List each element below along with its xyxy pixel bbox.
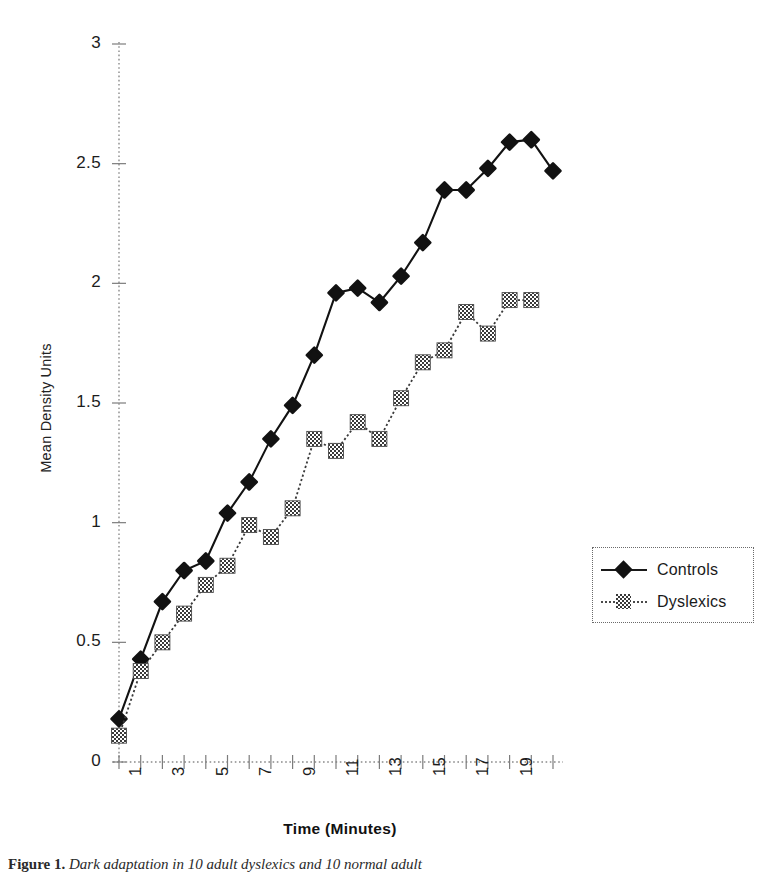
y-tick-label: 0.5 — [41, 631, 101, 651]
legend-label-controls: Controls — [647, 561, 718, 579]
x-tick-label: 15 — [430, 757, 449, 776]
x-tick-label: 11 — [343, 758, 362, 776]
data-series-layer — [112, 132, 561, 743]
legend-label-dyslexics: Dyslexics — [647, 593, 726, 611]
y-axis-title: Mean Density Units — [38, 298, 54, 518]
x-tick-label: 1 — [126, 767, 145, 776]
legend-item-dyslexics: Dyslexics — [601, 586, 745, 618]
legend-swatch-dyslexics — [601, 591, 647, 613]
x-tick-label: 3 — [169, 767, 188, 776]
axis-ticks — [112, 44, 553, 769]
figure-caption-text: Dark adaptation in 10 adult dyslexics an… — [65, 856, 422, 872]
y-tick-label: 3 — [41, 33, 101, 53]
series-controls — [112, 132, 561, 726]
x-axis-title: Time (Minutes) — [120, 820, 560, 838]
diamond-marker-icon — [614, 560, 632, 578]
x-tick-label: 5 — [213, 767, 232, 776]
y-tick-label: 0 — [41, 751, 101, 771]
square-marker-icon — [616, 594, 631, 609]
axis-lines — [113, 42, 563, 762]
figure-root: 00.511.522.53 135791113151719 Mean Densi… — [0, 0, 782, 874]
x-tick-label: 9 — [300, 767, 319, 776]
x-tick-label: 19 — [517, 757, 536, 776]
x-tick-label: 13 — [386, 757, 405, 776]
legend-swatch-controls — [601, 559, 647, 581]
chart-plot-area — [0, 0, 782, 874]
legend-item-controls: Controls — [601, 554, 745, 586]
figure-caption-lead: Figure 1. — [8, 856, 65, 872]
chart-legend: Controls Dyslexics — [592, 547, 754, 623]
y-tick-label: 2.5 — [41, 153, 101, 173]
figure-caption: Figure 1. Dark adaptation in 10 adult dy… — [8, 856, 778, 873]
series-dyslexics — [112, 293, 539, 744]
x-tick-label: 7 — [256, 767, 275, 776]
x-tick-label: 17 — [473, 757, 492, 776]
y-tick-label: 2 — [41, 272, 101, 292]
